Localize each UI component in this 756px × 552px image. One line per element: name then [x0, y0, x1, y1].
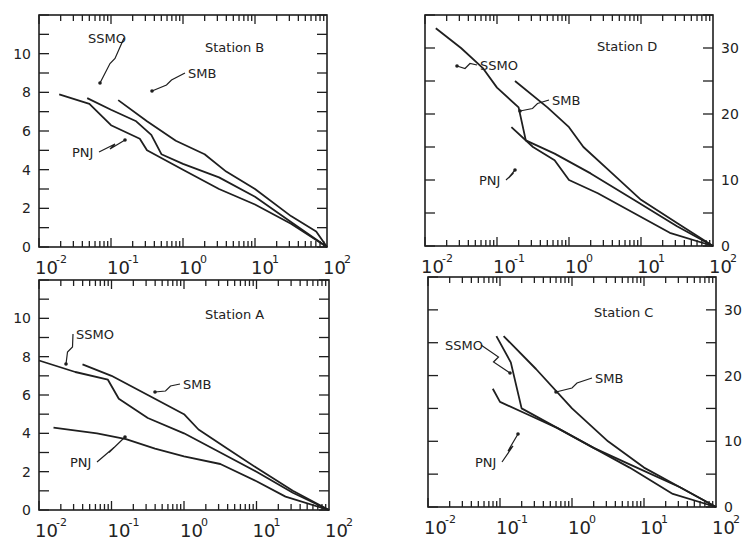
x-tick-exponent: -1: [517, 513, 528, 526]
arrowhead-icon: [518, 109, 522, 113]
annotation-leader: [152, 73, 185, 91]
series-annotation-ssmo: SSMO: [480, 58, 518, 73]
x-tick-label: 10: [640, 517, 663, 538]
series-annotation-pnj: PNJ: [479, 173, 500, 188]
x-tick-label: 10: [323, 257, 346, 278]
y-tick-label: 30: [724, 302, 742, 318]
x-tick-exponent: 2: [730, 252, 737, 265]
series-line-smb: [515, 81, 713, 246]
plot-frame: [428, 277, 716, 507]
series-annotation-ssmo: SSMO: [76, 327, 114, 342]
plot-frame: [39, 280, 329, 510]
chart-panel-station-b: 10-210-11001011020246810Station BSSMOSMB…: [13, 15, 351, 278]
x-tick-exponent: 2: [733, 513, 740, 526]
x-tick-exponent: -2: [445, 513, 456, 526]
series-annotation-smb: SMB: [183, 377, 211, 392]
y-tick-label: 10: [721, 172, 739, 188]
series-line-pnj: [54, 428, 330, 510]
y-tick-label: 4: [22, 425, 31, 441]
x-tick-label: 10: [180, 520, 203, 541]
x-tick-label: 10: [179, 257, 202, 278]
y-tick-label: 6: [22, 387, 31, 403]
annotation-leader: [99, 140, 125, 152]
x-tick-label: 10: [35, 257, 58, 278]
figure: 10-210-11001011020246810Station BSSMOSMB…: [0, 0, 756, 552]
x-tick-exponent: 1: [661, 513, 668, 526]
series-annotation-smb: SMB: [552, 93, 580, 108]
x-tick-exponent: -1: [128, 253, 139, 266]
x-tick-label: 10: [325, 520, 348, 541]
y-tick-label: 0: [22, 239, 31, 255]
x-tick-exponent: -1: [514, 252, 525, 265]
x-tick-exponent: 1: [658, 252, 665, 265]
x-tick-label: 10: [637, 256, 660, 277]
series-annotation-pnj: PNJ: [72, 145, 93, 160]
arrowhead-icon: [123, 138, 127, 142]
y-tick-label: 20: [721, 106, 739, 122]
x-tick-exponent: 0: [201, 516, 208, 529]
x-tick-label: 10: [568, 517, 591, 538]
series-annotation-ssmo: SSMO: [88, 31, 126, 46]
x-tick-label: 10: [251, 257, 274, 278]
x-tick-exponent: 1: [274, 516, 281, 529]
y-tick-label: 30: [721, 40, 739, 56]
y-tick-label: 0: [721, 238, 730, 254]
x-tick-exponent: 1: [272, 253, 279, 266]
x-tick-label: 10: [421, 256, 444, 277]
chart-panel-station-c: 10-210-11001011020102030Station CSSMOSMB…: [424, 277, 742, 538]
x-tick-label: 10: [108, 520, 131, 541]
arrowhead-icon: [64, 362, 68, 366]
x-tick-label: 10: [253, 520, 276, 541]
series-line-smb: [504, 336, 716, 507]
y-tick-label: 10: [13, 46, 31, 62]
annotation-leader: [97, 437, 125, 462]
arrowhead-icon: [123, 435, 127, 439]
panel-title: Station D: [597, 39, 657, 54]
y-tick-label: 4: [22, 162, 31, 178]
annotation-leader: [506, 170, 515, 180]
x-tick-exponent: -2: [56, 253, 67, 266]
series-annotation-smb: SMB: [595, 371, 623, 386]
annotation-leader: [502, 434, 518, 462]
arrowhead-icon: [554, 390, 558, 394]
arrowhead-icon: [98, 81, 102, 85]
y-tick-label: 2: [22, 464, 31, 480]
x-tick-label: 10: [712, 517, 735, 538]
annotation-leader: [66, 334, 73, 364]
annotation-leader: [481, 345, 510, 373]
x-tick-exponent: 2: [346, 516, 353, 529]
panel-title: Station A: [205, 307, 264, 322]
y-tick-label: 0: [724, 499, 733, 515]
y-tick-label: 8: [22, 349, 31, 365]
arrowhead-icon: [455, 64, 459, 68]
annotation-leader: [155, 384, 180, 392]
x-tick-label: 10: [424, 517, 447, 538]
x-tick-exponent: 0: [200, 253, 207, 266]
y-tick-label: 10: [13, 310, 31, 326]
y-tick-label: 10: [724, 433, 742, 449]
y-tick-label: 20: [724, 368, 742, 384]
x-tick-label: 10: [565, 256, 588, 277]
x-tick-label: 10: [493, 256, 516, 277]
series-annotation-pnj: PNJ: [475, 455, 496, 470]
arrowhead-icon: [150, 89, 154, 93]
x-tick-exponent: 0: [586, 252, 593, 265]
y-tick-label: 6: [22, 123, 31, 139]
y-tick-label: 0: [22, 502, 31, 518]
x-tick-label: 10: [496, 517, 519, 538]
y-tick-label: 8: [22, 84, 31, 100]
series-annotation-ssmo: SSMO: [445, 338, 483, 353]
chart-panel-station-d: 10-210-11001011020102030Station DSSMOSMB…: [421, 15, 739, 277]
panel-title: Station C: [594, 305, 653, 320]
series-line-pnj: [59, 94, 327, 247]
series-annotation-smb: SMB: [188, 66, 216, 81]
arrowhead-icon: [513, 168, 517, 172]
arrowhead-icon: [508, 371, 512, 375]
x-tick-label: 10: [709, 256, 732, 277]
y-tick-label: 2: [22, 200, 31, 216]
series-annotation-pnj: PNJ: [70, 455, 91, 470]
series-line-ssmo: [436, 28, 713, 246]
x-tick-exponent: -2: [56, 516, 67, 529]
x-tick-label: 10: [35, 520, 58, 541]
x-tick-exponent: 2: [344, 253, 351, 266]
